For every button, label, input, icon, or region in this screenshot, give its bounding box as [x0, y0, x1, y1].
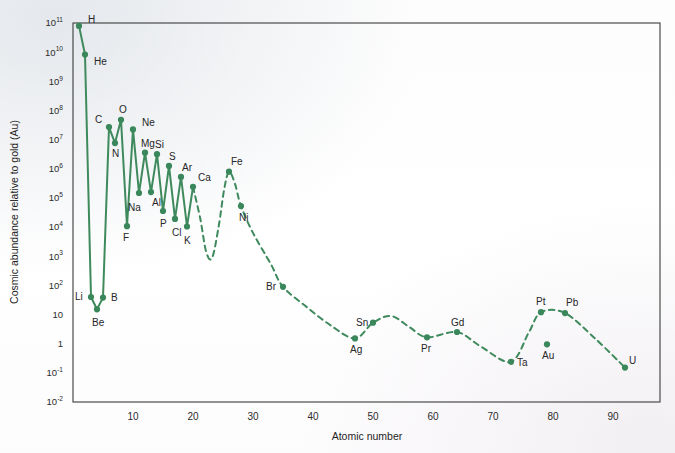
element-label-he: He — [94, 56, 107, 67]
element-label-si: Si — [155, 139, 164, 150]
data-point-f — [124, 223, 130, 229]
data-point-pr — [424, 334, 430, 340]
data-point-fe — [226, 169, 232, 175]
y-tick-label: 104 — [49, 220, 64, 232]
data-point-ne — [130, 126, 136, 132]
element-label-mg: Mg — [141, 138, 155, 149]
x-tick-label: 70 — [487, 411, 499, 422]
element-label-s: S — [169, 151, 176, 162]
element-label-p: P — [160, 218, 167, 229]
x-axis-title: Atomic number — [332, 430, 403, 442]
data-point-h — [76, 23, 82, 29]
data-point-au — [544, 341, 550, 347]
data-point-mg — [142, 150, 148, 156]
data-point-he — [82, 51, 88, 57]
y-tick-label: 105 — [49, 191, 64, 203]
x-tick-label: 50 — [367, 411, 379, 422]
element-label-k: K — [184, 235, 191, 246]
data-point-pt — [538, 309, 544, 315]
y-tick-label: 1011 — [46, 16, 64, 28]
element-label-cl: Cl — [172, 227, 181, 238]
data-point-k — [184, 223, 190, 229]
data-point-sn — [370, 320, 376, 326]
element-label-na: Na — [128, 202, 141, 213]
element-label-au: Au — [542, 350, 554, 361]
data-point-ag — [352, 335, 358, 341]
x-tick-label: 80 — [547, 411, 559, 422]
data-point-gd — [454, 329, 460, 335]
data-point-ta — [508, 359, 514, 365]
y-tick-label: 10-2 — [47, 395, 64, 407]
data-point-ar — [178, 174, 184, 180]
series-solid-segment — [79, 26, 193, 309]
data-point-na — [136, 190, 142, 196]
data-point-li — [88, 294, 94, 300]
data-point-ca — [190, 184, 196, 190]
x-axis-tick-labels: 102030405060708090 — [127, 411, 619, 422]
element-label-ni: Ni — [239, 212, 248, 223]
element-label-h: H — [88, 14, 95, 25]
data-point-al — [148, 189, 154, 195]
cosmic-abundance-chart-figure: 1011101010910810710610510410310210110-11… — [0, 0, 675, 453]
y-tick-label: 107 — [49, 133, 64, 145]
data-point-br — [280, 284, 286, 290]
element-label-sn: Sn — [356, 317, 368, 328]
data-point-b — [100, 295, 106, 301]
element-label-o: O — [119, 104, 127, 115]
data-point-u — [622, 365, 628, 371]
element-label-n: N — [112, 148, 119, 159]
element-label-pb: Pb — [566, 297, 579, 308]
element-label-gd: Gd — [451, 317, 464, 328]
element-label-ne: Ne — [142, 117, 155, 128]
y-tick-label: 1 — [58, 338, 63, 349]
y-axis-title: Cosmic abundance relative to gold (Au) — [8, 120, 20, 304]
element-label-ag: Ag — [350, 344, 362, 355]
element-label-ar: Ar — [182, 162, 193, 173]
element-label-be: Be — [92, 317, 105, 328]
cosmic-abundance-chart: 1011101010910810710610510410310210110-11… — [0, 0, 675, 453]
element-label-u: U — [629, 355, 636, 366]
data-point-cl — [172, 216, 178, 222]
data-point-c — [106, 124, 112, 130]
y-tick-label: 10 — [52, 309, 63, 320]
series-dashed-segment — [193, 172, 625, 368]
element-label-f: F — [123, 232, 129, 243]
element-label-pr: Pr — [421, 343, 432, 354]
x-tick-label: 20 — [187, 411, 199, 422]
element-label-ta: Ta — [517, 357, 528, 368]
x-tick-label: 10 — [127, 411, 139, 422]
x-tick-label: 30 — [247, 411, 259, 422]
y-tick-label: 103 — [49, 249, 64, 261]
data-point-n — [112, 140, 118, 146]
y-tick-label: 106 — [49, 162, 64, 174]
element-labels-layer: HHeLiBeBCNOFNeNaMgAlSiPSClArKCaFeNiBrAgS… — [75, 14, 636, 368]
element-label-al: Al — [152, 197, 161, 208]
data-point-s — [166, 163, 172, 169]
data-point-p — [160, 208, 166, 214]
y-tick-label: 102 — [49, 279, 64, 291]
data-point-si — [154, 151, 160, 157]
element-label-li: Li — [75, 291, 83, 302]
x-tick-label: 60 — [427, 411, 439, 422]
x-tick-label: 40 — [307, 411, 319, 422]
element-label-br: Br — [266, 281, 277, 292]
element-label-fe: Fe — [231, 156, 243, 167]
y-tick-label: 1010 — [45, 45, 63, 57]
element-label-c: C — [95, 114, 102, 125]
y-tick-label: 109 — [49, 75, 64, 87]
data-point-be — [94, 306, 100, 312]
y-axis-tick-labels: 1011101010910810710610510410310210110-11… — [45, 16, 63, 407]
element-label-b: B — [111, 292, 118, 303]
y-tick-label: 108 — [49, 104, 64, 116]
data-point-pb — [562, 310, 568, 316]
element-label-ca: Ca — [198, 172, 211, 183]
y-tick-label: 10-1 — [47, 366, 64, 378]
data-point-ni — [238, 203, 244, 209]
x-tick-label: 90 — [607, 411, 619, 422]
data-point-o — [118, 117, 124, 123]
element-label-pt: Pt — [536, 296, 546, 307]
